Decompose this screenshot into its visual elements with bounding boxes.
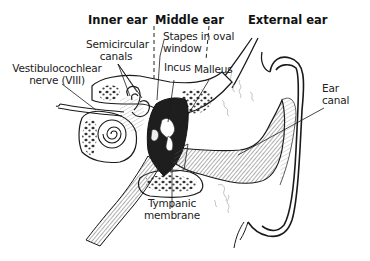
label-malleus: Malleus: [194, 63, 233, 75]
label-semicircular-canals: Semicircular canals: [86, 38, 146, 62]
label-vestibulocochlear-nerve: Vestibulocochlear nerve (VIII): [12, 62, 102, 86]
label-ear-canal: Ear canal: [322, 82, 349, 106]
header-inner-ear: Inner ear: [88, 14, 147, 27]
ear-anatomy-diagram: Inner ear Middle ear External ear Semici…: [0, 0, 370, 261]
header-middle-ear: Middle ear: [155, 14, 224, 27]
label-stapes-oval-window: Stapes in oval window: [163, 30, 234, 54]
header-external-ear: External ear: [248, 14, 327, 27]
label-tympanic-membrane: Tympanic membrane: [140, 197, 204, 221]
label-incus: Incus: [164, 61, 191, 73]
